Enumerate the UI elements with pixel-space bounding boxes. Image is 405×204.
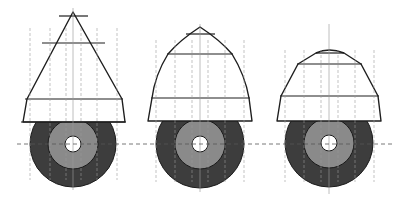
- cone-profiles: [21, 12, 381, 122]
- diagram-canvas: [0, 0, 405, 204]
- figure-cone-straight: [21, 12, 126, 122]
- nose-cone-diagram: [0, 0, 405, 204]
- cone-profile-outline: [23, 12, 125, 122]
